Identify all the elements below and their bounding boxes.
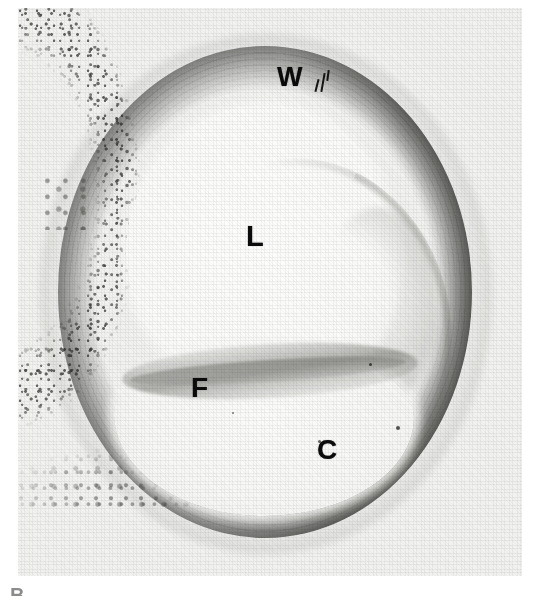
micrograph-image: W L F C [18,8,522,576]
tissue-debris-left [42,176,90,230]
figure-root: W L F C B [0,0,541,596]
artifact-speck [369,363,372,366]
figure-panel-letter: B [10,585,24,596]
label-flap: F [191,374,208,402]
label-channel: C [317,436,337,464]
artifact-speck [232,412,234,414]
artifact-speck [396,426,400,430]
label-wall: W [277,64,302,91]
pointer-tick-marks [314,70,332,96]
label-lumen: L [246,222,264,251]
